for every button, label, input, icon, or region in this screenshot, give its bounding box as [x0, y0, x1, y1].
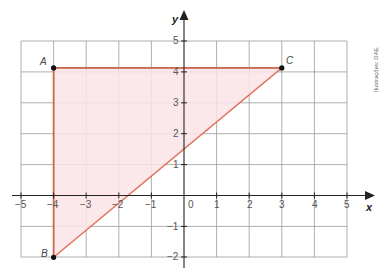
x-tick-m1: −1: [145, 199, 157, 210]
x-tick-p2: 2: [247, 199, 253, 210]
y-tick-p5: 5: [173, 35, 179, 46]
y-tick-p3: 3: [173, 97, 179, 108]
x-tick-m4: −4: [47, 199, 59, 210]
x-axis-label: x: [365, 201, 373, 213]
x-tick-m3: −3: [80, 199, 92, 210]
y-tick-p2: 2: [173, 128, 179, 139]
point-b-label: B: [41, 248, 48, 259]
y-tick-m1: −1: [167, 221, 179, 232]
point-b: [51, 255, 56, 260]
coordinate-plane: −5 −4 −3 −2 −1 0 1 2 3 4 5 5 4 3 2 1 −1 …: [0, 0, 392, 279]
x-axis-arrow-icon: [365, 191, 375, 200]
x-tick-m5: −5: [15, 199, 27, 210]
y-tick-m2: −2: [167, 251, 179, 262]
x-tick-p4: 4: [312, 199, 318, 210]
point-c: [279, 65, 284, 70]
illustration-credit: Ilustrações: DAE: [373, 47, 379, 92]
x-tick-m2: −2: [112, 199, 124, 210]
y-tick-p4: 4: [173, 66, 179, 77]
point-c-label: C: [286, 55, 294, 66]
x-tick-0: 0: [188, 199, 194, 210]
x-tick-p5: 5: [344, 199, 350, 210]
point-a-label: A: [39, 56, 47, 67]
y-tick-p1: 1: [173, 159, 179, 170]
x-tick-p1: 1: [214, 199, 220, 210]
y-axis-arrow-icon: [180, 10, 189, 20]
y-axis-label: y: [171, 13, 179, 25]
x-tick-p3: 3: [279, 199, 285, 210]
point-a: [51, 65, 56, 70]
